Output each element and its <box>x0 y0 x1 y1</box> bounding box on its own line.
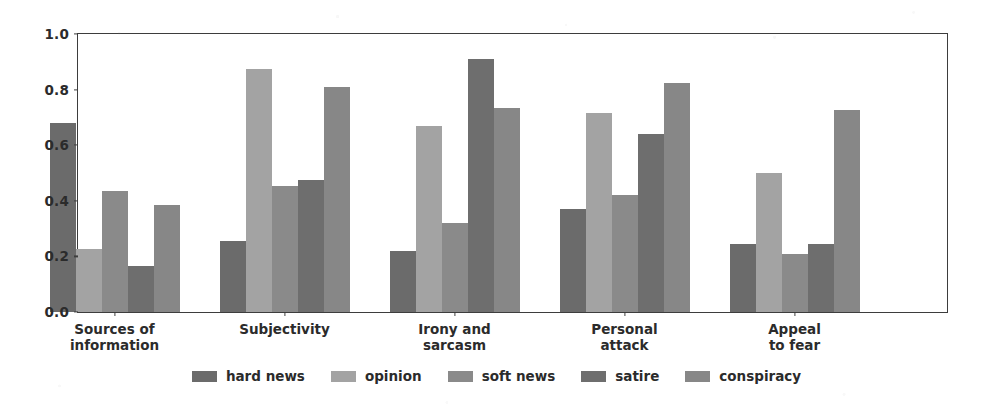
bar <box>586 113 612 312</box>
bar <box>494 108 520 312</box>
chart-legend: hard newsopinionsoft newssatireconspirac… <box>0 368 993 384</box>
bar <box>834 110 860 312</box>
bar <box>560 209 586 312</box>
bar <box>730 244 756 312</box>
legend-swatch-icon <box>331 371 356 382</box>
y-axis-tick-mark <box>74 89 78 90</box>
legend-swatch-icon <box>685 371 710 382</box>
bar <box>612 195 638 312</box>
legend-label: conspiracy <box>719 368 801 384</box>
y-axis-tick-label: 0.4 <box>44 193 78 209</box>
bars-layer <box>78 34 947 312</box>
legend-swatch-icon <box>192 371 217 382</box>
bar <box>390 251 416 312</box>
legend-label: satire <box>615 368 659 384</box>
legend-swatch-icon <box>448 371 473 382</box>
bar <box>76 249 102 312</box>
y-axis-tick-mark <box>74 145 78 146</box>
legend-label: opinion <box>365 368 422 384</box>
bar <box>324 87 350 312</box>
bar <box>272 186 298 312</box>
x-axis-tick-mark <box>454 312 455 316</box>
bar <box>808 244 834 312</box>
y-axis-tick-label: 0.8 <box>44 82 78 98</box>
bar <box>154 205 180 312</box>
bar <box>128 266 154 312</box>
x-axis-tick-label: Sources of information <box>70 321 159 354</box>
x-axis-tick-label: Subjectivity <box>239 321 330 337</box>
bar <box>664 83 690 312</box>
y-axis-tick-mark <box>74 33 78 34</box>
legend-label: hard news <box>226 368 305 384</box>
y-axis-tick-mark <box>74 256 78 257</box>
x-axis-tick-mark <box>794 312 795 316</box>
x-axis-tick-label: Personal attack <box>591 321 657 354</box>
y-axis-tick-label: 0.6 <box>44 137 78 153</box>
x-axis-tick-mark <box>114 312 115 316</box>
bar <box>756 173 782 312</box>
legend-item: satire <box>581 368 659 384</box>
bar <box>298 180 324 312</box>
bar <box>468 59 494 312</box>
y-axis-tick-label: 0.2 <box>44 248 78 264</box>
legend-item: soft news <box>448 368 556 384</box>
legend-item: conspiracy <box>685 368 801 384</box>
bar <box>442 223 468 312</box>
x-axis-tick-mark <box>624 312 625 316</box>
x-axis-tick-label: Irony and sarcasm <box>418 321 490 354</box>
legend-label: soft news <box>482 368 556 384</box>
y-axis-tick-mark <box>74 311 78 312</box>
bar <box>638 134 664 312</box>
plot-area: 0.00.20.40.60.81.0Sources of information… <box>77 33 948 313</box>
legend-item: opinion <box>331 368 422 384</box>
bar <box>782 254 808 312</box>
bar <box>416 126 442 312</box>
chart-figure: 0.00.20.40.60.81.0Sources of information… <box>0 0 993 415</box>
y-axis-tick-label: 0.0 <box>44 304 78 320</box>
y-axis-tick-mark <box>74 200 78 201</box>
legend-swatch-icon <box>581 371 606 382</box>
x-axis-tick-mark <box>284 312 285 316</box>
bar <box>246 69 272 312</box>
bar <box>220 241 246 312</box>
x-axis-tick-label: Appeal to fear <box>768 321 821 354</box>
legend-item: hard news <box>192 368 305 384</box>
bar <box>102 191 128 312</box>
y-axis-tick-label: 1.0 <box>44 26 78 42</box>
